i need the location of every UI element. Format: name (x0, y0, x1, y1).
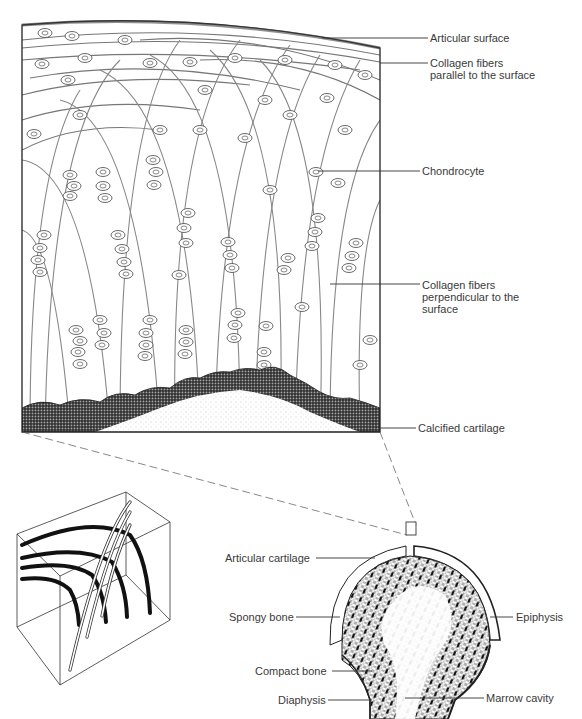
label-marrow-cavity: Marrow cavity (486, 692, 554, 704)
label-calcified-cartilage: Calcified cartilage (418, 422, 505, 434)
cartilage-section-interior (22, 10, 382, 435)
label-diaphysis: Diaphysis (278, 694, 326, 706)
long-bone-section (330, 546, 500, 719)
label-spongy-bone: Spongy bone (229, 611, 294, 623)
cartilage-section-panel (22, 10, 382, 435)
label-chondrocyte: Chondrocyte (422, 165, 484, 177)
label-articular-cartilage: Articular cartilage (225, 552, 310, 564)
zoom-region-box (406, 522, 416, 535)
label-collagen-parallel: Collagen fibers parallel to the surface (430, 57, 540, 81)
fiber-block-schematic (17, 492, 170, 685)
label-epiphysis: Epiphysis (516, 611, 563, 623)
zoom-indicator-lines (22, 432, 416, 535)
label-articular-surface: Articular surface (430, 32, 509, 44)
label-collagen-perpendicular: Collagen fibers perpendicular to the sur… (422, 279, 522, 315)
label-compact-bone: Compact bone (255, 665, 327, 677)
